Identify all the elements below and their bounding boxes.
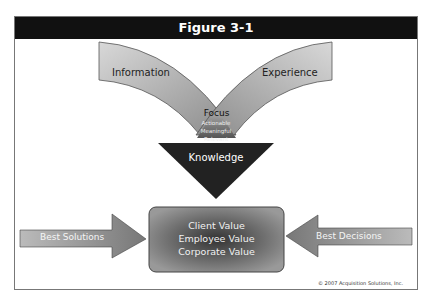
focus-quality-1: Actionable [196,120,236,126]
knowledge-label: Knowledge [176,152,256,163]
focus-quality-3: Relevant [196,136,236,142]
value-line-1: Client Value [149,220,284,231]
information-label: Information [112,67,170,78]
copyright-notice: © 2007 Acquisition Solutions, Inc. [318,280,403,286]
focus-label: Focus [200,108,233,118]
value-line-3: Corporate Value [149,246,284,257]
best-solutions-label: Best Solutions [40,232,104,242]
best-decisions-label: Best Decisions [316,231,382,241]
experience-label: Experience [262,67,318,78]
value-line-2: Employee Value [149,233,284,244]
focus-quality-2: Meaningful [196,128,236,134]
